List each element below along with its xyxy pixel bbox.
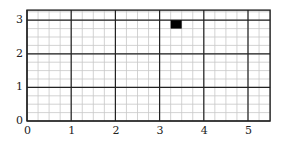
filled-cell: [171, 20, 182, 28]
y-tick-label: 0: [16, 115, 23, 126]
x-tick-label: 5: [245, 125, 252, 136]
y-tick-label: 2: [16, 48, 23, 59]
x-tick-label: 2: [112, 125, 119, 136]
grid-chart: [0, 0, 284, 145]
x-tick-label: 3: [157, 125, 164, 136]
filled-cells: [171, 20, 182, 28]
y-tick-label: 1: [16, 81, 23, 92]
minor-grid: [27, 10, 270, 121]
x-tick-label: 0: [24, 125, 31, 136]
x-tick-label: 1: [68, 125, 75, 136]
y-tick-label: 3: [16, 14, 23, 25]
x-tick-label: 4: [201, 125, 208, 136]
